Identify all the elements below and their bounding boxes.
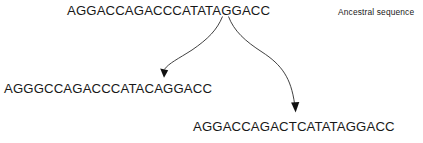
arrow-to-right-descendant-path [229,17,295,105]
ancestral-sequence-text: AGGACCAGACCCATATAGGACC [67,3,270,18]
left-descendant-sequence-text: AGGGCCAGACCCATACAGGACC [4,81,212,96]
arrow-to-left-descendant-head [160,69,168,78]
right-descendant-sequence-text: AGGACCAGACTCATATAGGACC [193,119,395,134]
sequence-divergence-diagram: AGGACCAGACCCATATAGGACC Ancestral sequenc… [0,0,423,143]
arrow-to-right-descendant-head [291,102,299,113]
arrow-to-left-descendant-path [164,17,222,70]
ancestral-sequence-caption: Ancestral sequence [338,7,414,18]
